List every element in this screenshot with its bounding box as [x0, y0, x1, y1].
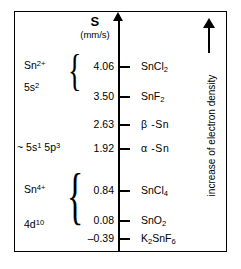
species-label: α -Sn	[141, 142, 169, 154]
tick-mark	[119, 96, 130, 98]
group-config-4d10: 4d10	[24, 218, 44, 230]
group-label-sn4plus: Sn4+	[24, 183, 46, 195]
value-label: 2.63	[78, 118, 114, 130]
axis-title: S	[76, 14, 114, 29]
species-label: SnF2	[141, 90, 165, 104]
figure-frame	[14, 11, 227, 252]
species-label: SnCl4	[141, 184, 168, 198]
electron-density-arrow-shaft	[208, 26, 210, 53]
value-label: 4.06	[78, 60, 114, 72]
value-label: 3.50	[78, 90, 114, 102]
species-label: SnO2	[141, 214, 166, 228]
axis-unit-label: (mm/s)	[70, 29, 120, 40]
group-label-sn2plus: Sn2+	[24, 59, 46, 71]
electron-density-annotation: increase of electron density	[206, 71, 217, 201]
tick-mark	[119, 148, 130, 150]
tick-mark	[119, 220, 130, 222]
brace-sn2plus: {	[68, 49, 81, 92]
group-config-5s2: 5s2	[24, 81, 39, 93]
species-label: SnCl2	[141, 60, 168, 74]
value-label: 0.08	[78, 214, 114, 226]
tick-mark	[119, 66, 130, 68]
tick-mark	[119, 190, 130, 192]
species-label: β -Sn	[141, 118, 169, 130]
tick-mark	[119, 124, 130, 126]
value-label: –0.39	[78, 232, 114, 244]
value-label: 0.84	[78, 184, 114, 196]
brace-sn4plus: {	[67, 166, 83, 229]
value-label: 1.92	[78, 142, 114, 154]
axis-line	[118, 18, 120, 252]
species-label: K2SnF6	[141, 232, 176, 246]
isomer-shift-diagram: S (mm/s) 4.06 SnCl2 3.50 SnF2 2.63 β -Sn…	[0, 0, 241, 269]
tick-mark	[119, 238, 130, 240]
group-label-intermediate: ~ 5s1 5p3	[17, 141, 60, 153]
